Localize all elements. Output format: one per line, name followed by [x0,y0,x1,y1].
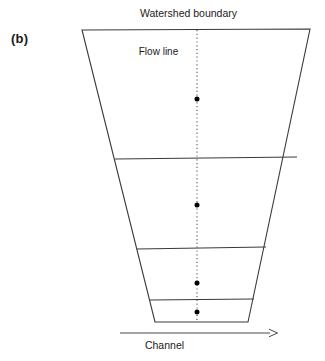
flow-point-4 [195,310,200,315]
channel-label: Channel [145,339,184,351]
flow-line-label: Flow line [139,46,178,57]
flow-point-3 [195,281,200,286]
channel-arrow [120,329,278,337]
panel-label: (b) [11,31,28,46]
watershed-boundary-shape [82,29,310,322]
channel-label-wrap: Channel [0,339,325,351]
flow-point-1 [195,97,200,102]
watershed-boundary-label-wrap: Watershed boundary [0,7,325,19]
flow-line-label-wrap: Flow line [0,46,325,57]
channel-arrow-head-icon [269,329,278,337]
flow-point-2 [195,203,200,208]
watershed-boundary-label: Watershed boundary [140,7,237,19]
watershed-figure: (b) Watershed boundary Flow line Channel [0,0,325,361]
